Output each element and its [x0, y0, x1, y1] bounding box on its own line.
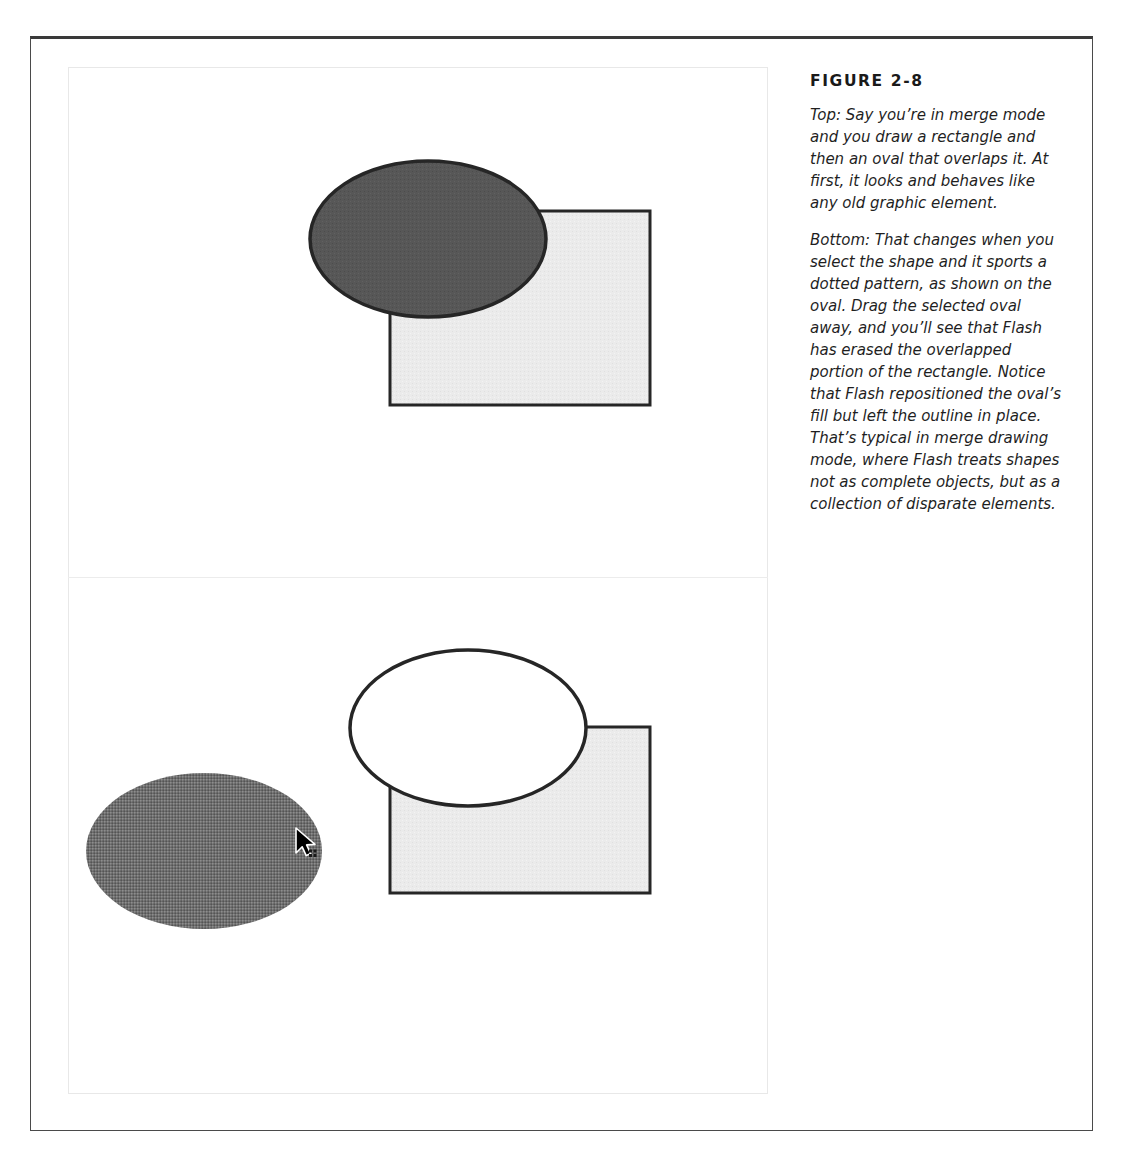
illustration-panel-bottom [68, 578, 768, 1094]
top-oval-shape [310, 161, 546, 317]
caption-paragraph-top: Top: Say you’re in merge mode and you dr… [810, 104, 1062, 214]
bottom-oval-selected-dragged[interactable] [86, 773, 322, 929]
figure-label: FIGURE 2-8 [810, 72, 1062, 91]
illustration-panel-top [68, 67, 768, 577]
bottom-oval-outline-left-behind [350, 650, 586, 806]
figure-caption: FIGURE 2-8 Top: Say you’re in merge mode… [810, 72, 1062, 515]
caption-paragraph-bottom: Bottom: That changes when you select the… [810, 229, 1062, 516]
figure-page: FIGURE 2-8 Top: Say you’re in merge mode… [0, 0, 1131, 1151]
